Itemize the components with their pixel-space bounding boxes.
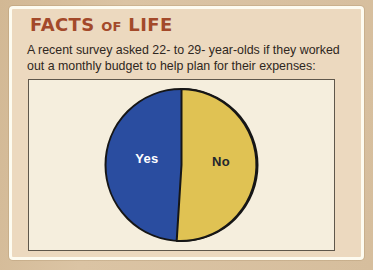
pie-label-yes: Yes: [125, 151, 169, 166]
description-line-2: out a monthly budget to help plan for th…: [27, 58, 340, 74]
facts-of-life-card: FACTS OF LIFE A recent survey asked 22- …: [9, 6, 364, 260]
page-background: FACTS OF LIFE A recent survey asked 22- …: [0, 0, 373, 270]
survey-description: A recent survey asked 22- to 29- year-ol…: [27, 42, 340, 74]
pie-label-no: No: [199, 154, 243, 169]
title-word-life: LIFE: [128, 14, 172, 35]
pie-chart: [29, 80, 334, 250]
title-word-of: OF: [101, 19, 121, 34]
card-title: FACTS OF LIFE: [30, 14, 173, 35]
chart-panel: Yes No: [28, 79, 335, 251]
title-word-facts: FACTS: [30, 14, 95, 35]
description-line-1: A recent survey asked 22- to 29- year-ol…: [27, 42, 340, 58]
